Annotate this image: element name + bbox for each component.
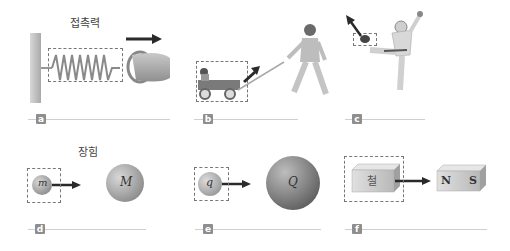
large-charge-label: Q (288, 175, 298, 189)
panel-b: b (170, 0, 340, 125)
iron-system-box (344, 156, 404, 202)
panel-a-label: a (36, 114, 46, 124)
panel-e: q Q e (170, 130, 340, 251)
football-kicker-illustration (340, 0, 510, 125)
wagon-system-box (196, 61, 248, 102)
magnet-north-label: N (441, 174, 451, 187)
mass-spheres-illustration (0, 130, 170, 251)
arrow-up-left-icon (344, 14, 364, 38)
small-charge-system-box (194, 167, 229, 201)
panel-d-divider (28, 229, 146, 230)
panel-e-label: e (203, 224, 213, 234)
panel-d: m M d (0, 130, 170, 251)
panel-f: 철 N S f (340, 130, 510, 251)
panel-c-label: c (352, 114, 362, 124)
panel-f-divider (345, 229, 487, 230)
arrow-diagonal-icon (242, 66, 262, 86)
magnet-south-label: S (469, 174, 477, 187)
panel-a-divider (28, 119, 170, 120)
panel-a: a (0, 0, 170, 125)
large-mass-label: M (120, 175, 132, 189)
spring-system-box (48, 48, 123, 82)
small-mass-system-box (27, 168, 61, 203)
panel-d-label: d (35, 224, 45, 234)
panel-e-divider (195, 229, 321, 230)
arrow-right-icon (126, 34, 166, 44)
panel-b-label: b (203, 114, 213, 124)
panel-c: c (340, 0, 510, 125)
panel-f-label: f (352, 224, 362, 234)
